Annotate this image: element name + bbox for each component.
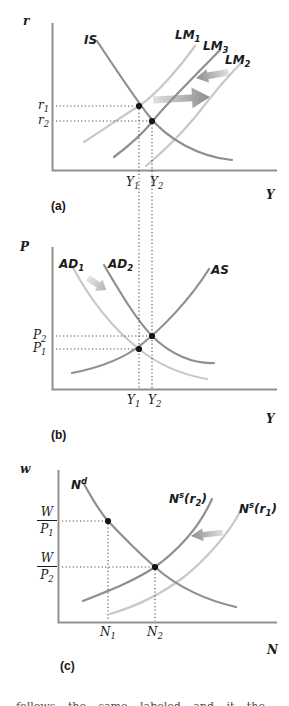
panel-c-letter: (c) xyxy=(60,660,75,672)
ns-r1-curve-label: Ns(r1) xyxy=(239,503,277,515)
n1-value-label: N1 xyxy=(100,626,116,638)
panel-a-y2-value-label: Y2 xyxy=(150,176,163,188)
lm3-curve-label: LM3 xyxy=(203,40,229,52)
panel-a-y1-value-label: Y1 xyxy=(126,176,139,188)
n2-value-label: N2 xyxy=(147,626,163,638)
r1-value-label: r1 xyxy=(38,99,49,111)
nd-curve-label: Nd xyxy=(71,479,87,491)
lm1-curve-label: LM1 xyxy=(175,29,201,41)
real-wage-1-fraction: W P1 xyxy=(37,506,57,535)
ad1-curve-label: AD1 xyxy=(59,258,84,270)
r2-value-label: r2 xyxy=(38,114,49,126)
nd-curve xyxy=(84,484,236,607)
p2-value-label: P2 xyxy=(33,329,47,341)
real-wage-2-fraction: W P2 xyxy=(37,552,57,581)
islm-adas-labor-figure: r IS LM1 LM3 LM2 r1 r2 Y1 Y2 Y (a) P AD1… xyxy=(0,0,289,706)
is-curve-label: IS xyxy=(84,34,97,46)
panel-b-y-axis-label: P xyxy=(20,241,29,253)
cropped-caption-text: follows the same labeled and it the xyxy=(16,701,278,706)
equilibrium-dot-a2 xyxy=(149,118,155,124)
panel-c-x-axis-label: N xyxy=(267,644,278,656)
panel-a-y-axis-label: r xyxy=(23,15,29,27)
as-curve-label: AS xyxy=(211,264,229,276)
equilibrium-dot-a1 xyxy=(136,103,142,109)
equilibrium-dot-c1 xyxy=(105,518,111,524)
ns-r2-curve-label: Ns(r2) xyxy=(169,493,207,505)
equilibrium-dot-b2 xyxy=(149,333,155,339)
panel-a-x-axis-label: Y xyxy=(266,189,275,201)
ad2-curve-label: AD2 xyxy=(108,258,133,270)
equilibrium-dot-b1 xyxy=(136,346,142,352)
equilibrium-dot-c2 xyxy=(152,564,158,570)
panel-b-x-axis-label: Y xyxy=(266,413,275,425)
panel-b-y2-value-label: Y2 xyxy=(148,394,161,406)
ns-r1-curve xyxy=(110,510,241,614)
lm2-curve-label: LM2 xyxy=(225,54,251,66)
ad2-curve xyxy=(104,265,214,363)
panel-b-letter: (b) xyxy=(51,429,66,441)
panel-a-letter: (a) xyxy=(51,200,66,212)
panel-b-axes xyxy=(53,247,278,390)
lm3-curve xyxy=(114,50,220,157)
panel-b-y1-value-label: Y1 xyxy=(127,394,140,406)
panel-c-axes xyxy=(59,470,278,623)
panel-c-y-axis-label: w xyxy=(20,463,30,475)
p1-value-label: P1 xyxy=(33,342,47,354)
